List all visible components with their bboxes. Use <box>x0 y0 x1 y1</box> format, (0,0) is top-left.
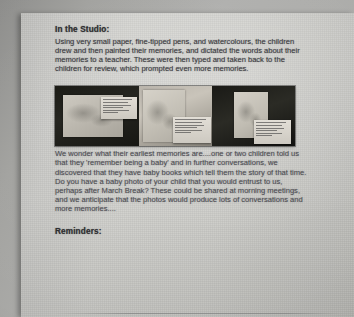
caption-card-1 <box>101 97 137 119</box>
section-heading-reminders: Reminders: <box>55 227 308 236</box>
studio-paragraph: Using very small paper, fine-tipped pens… <box>55 37 308 73</box>
clipped-text-line <box>55 312 344 316</box>
memories-paragraph: We wonder what their earliest memories a… <box>55 149 308 213</box>
newsletter-page: In the Studio: Using very small paper, f… <box>21 13 354 317</box>
children-artwork-photo-strip <box>55 86 295 146</box>
page-content: In the Studio: Using very small paper, f… <box>55 25 308 236</box>
photo-panel-1 <box>55 86 139 146</box>
section-heading-in-the-studio: In the Studio: <box>55 25 308 34</box>
photo-panel-2 <box>139 86 212 146</box>
scanned-document-photo: In the Studio: Using very small paper, f… <box>0 0 354 317</box>
caption-card-3 <box>254 120 291 144</box>
photo-panel-3 <box>212 86 295 146</box>
caption-card-2 <box>173 117 211 143</box>
